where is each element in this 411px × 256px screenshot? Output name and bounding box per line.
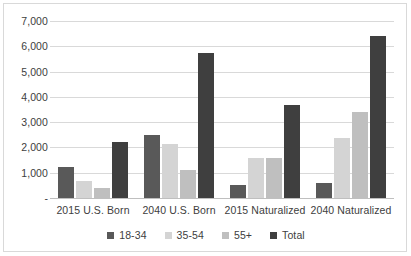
bar-group (50, 21, 136, 198)
y-axis-tick-label: 2,000 (6, 142, 48, 152)
bar[interactable] (76, 181, 92, 198)
legend-label: 18-34 (119, 230, 146, 241)
legend-label: Total (282, 230, 305, 241)
legend-swatch-icon (165, 232, 172, 239)
axis-baseline (50, 198, 394, 199)
bar[interactable] (370, 36, 386, 198)
bar[interactable] (334, 138, 350, 198)
legend-item[interactable]: 55+ (222, 230, 252, 241)
legend-label: 35-54 (177, 230, 204, 241)
x-axis-category-label: 2040 Naturalized (308, 203, 394, 219)
legend-item[interactable]: Total (270, 230, 305, 241)
bar[interactable] (284, 105, 300, 198)
legend-item[interactable]: 35-54 (165, 230, 204, 241)
y-axis-tick-label: 5,000 (6, 67, 48, 77)
bar[interactable] (352, 112, 368, 198)
legend-swatch-icon (222, 232, 229, 239)
y-axis-tick-label: 4,000 (6, 92, 48, 102)
x-axis-category-label: 2015 U.S. Born (50, 203, 136, 219)
legend-item[interactable]: 18-34 (107, 230, 146, 241)
y-axis: 7,0006,0005,0004,0003,0002,0001,000- (4, 21, 48, 198)
bar[interactable] (58, 167, 74, 198)
bar[interactable] (94, 188, 110, 198)
plot-area (50, 21, 394, 198)
bar-groups (50, 21, 394, 198)
bar[interactable] (162, 144, 178, 198)
bar[interactable] (144, 135, 160, 198)
legend-swatch-icon (107, 232, 114, 239)
bar-group (308, 21, 394, 198)
bar-group (136, 21, 222, 198)
y-axis-tick-label: - (6, 193, 48, 203)
bar[interactable] (266, 158, 282, 198)
x-axis-category-label: 2015 Naturalized (222, 203, 308, 219)
y-axis-tick-label: 3,000 (6, 117, 48, 127)
bar[interactable] (230, 185, 246, 198)
y-axis-tick-label: 6,000 (6, 41, 48, 51)
bar[interactable] (198, 53, 214, 198)
chart-legend: 18-3435-5455+Total (4, 226, 408, 244)
bar[interactable] (248, 158, 264, 198)
x-axis-category-label: 2040 U.S. Born (136, 203, 222, 219)
y-axis-tick-label: 1,000 (6, 168, 48, 178)
legend-swatch-icon (270, 232, 277, 239)
x-axis-labels: 2015 U.S. Born2040 U.S. Born2015 Natural… (50, 203, 394, 219)
bar[interactable] (316, 183, 332, 198)
bar-group (222, 21, 308, 198)
y-axis-tick-label: 7,000 (6, 16, 48, 26)
bar[interactable] (180, 170, 196, 198)
bar[interactable] (112, 142, 128, 198)
chart-container: 7,0006,0005,0004,0003,0002,0001,000- 201… (3, 3, 407, 252)
legend-label: 55+ (234, 230, 252, 241)
